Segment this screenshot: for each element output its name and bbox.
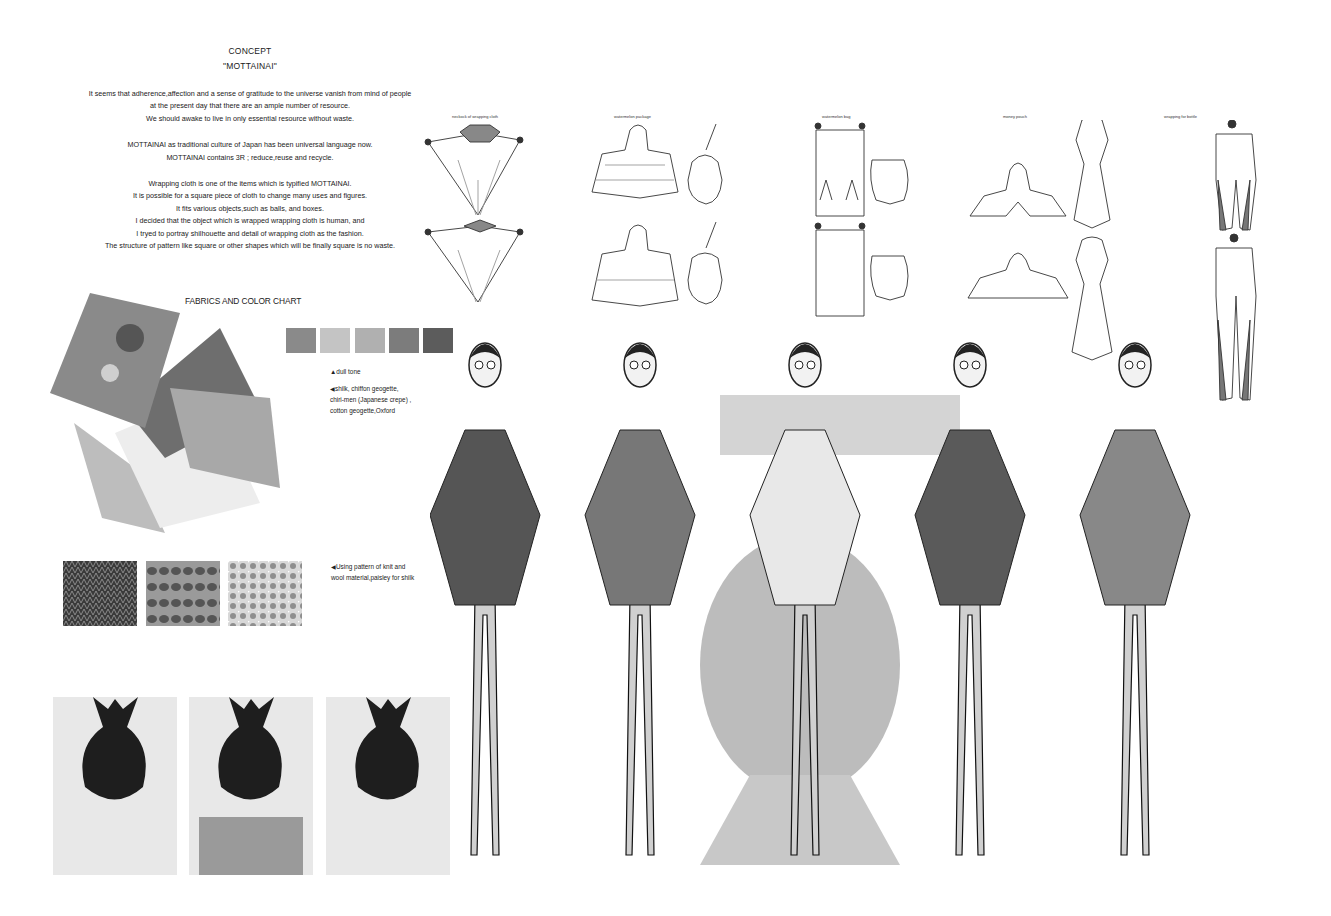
concept-paragraph-1: It seems that adherence,affection and a … [40, 88, 460, 125]
figure-garment [915, 430, 1025, 605]
figure-garment [1080, 430, 1190, 605]
concept-line: Wrapping cloth is one of the items which… [148, 179, 351, 188]
pattern-note: ◀Using pattern of knit and wool material… [331, 561, 414, 583]
figure-legs [791, 595, 819, 855]
concept-subheading: "MOTTAINAI" [40, 59, 460, 74]
figure-eye-left [630, 361, 638, 369]
concept-text-block: CONCEPT "MOTTAINAI" It seems that adhere… [40, 44, 460, 262]
concept-line: It is possible for a square piece of clo… [133, 191, 367, 200]
figure-eye-right [642, 361, 650, 369]
color-swatch-2 [320, 328, 350, 353]
concept-paragraph-2: MOTTAINAI as traditional culture of Japa… [40, 139, 460, 164]
concept-line: We should awake to live in only essentia… [146, 114, 354, 123]
concept-line: I decided that the object which is wrapp… [136, 216, 365, 225]
flat-label-money-pouch: money pouch [1003, 114, 1027, 119]
figure-eye-right [972, 361, 980, 369]
figure-eye-left [795, 361, 803, 369]
material-note: ◀shilk, chiffon geogette, chiri-men (Jap… [330, 383, 411, 416]
material-note-line: chiri-men (Japanese crepe) , [330, 396, 411, 403]
fashion-figure-4 [915, 343, 1025, 855]
figure-eye-left [1125, 361, 1133, 369]
concept-line: It seems that adherence,affection and a … [89, 89, 412, 98]
fabric-swatch-motif [116, 324, 144, 352]
concept-line: It fits various objects,such as balls, a… [176, 204, 324, 213]
figure-garment [430, 430, 540, 605]
fashion-figure-5 [1080, 343, 1190, 855]
flat-long-dress [1072, 120, 1112, 360]
concept-line: at the present day that there are an amp… [150, 101, 350, 110]
photo-wrapped-cloth-2 [189, 697, 313, 875]
figure-garment [750, 430, 860, 605]
flat-label-neckock: neckock of wrapping cloth [452, 114, 498, 119]
fabric-swatches-collage [40, 278, 310, 548]
wrapped-cloth-shape [355, 697, 418, 800]
flat-money-pouch [968, 163, 1068, 298]
concept-paragraph-3: Wrapping cloth is one of the items which… [40, 178, 460, 252]
color-swatch-1 [286, 328, 316, 353]
flat-neckock-back [425, 220, 523, 302]
pattern-note-line: ◀Using pattern of knit and [331, 563, 405, 570]
figure-legs [1121, 595, 1149, 855]
figure-legs [471, 595, 499, 855]
fashion-figures [430, 335, 1310, 875]
concept-heading: CONCEPT [40, 44, 460, 59]
color-swatch-3 [355, 328, 385, 353]
figure-eye-left [475, 361, 483, 369]
fashion-figure-1 [430, 343, 540, 855]
wrapped-cloth-shape [82, 697, 145, 800]
photo-wrapped-cloth-1 [53, 697, 177, 875]
figure-eye-right [807, 361, 815, 369]
material-note-line: cotton geogette,Oxford [330, 407, 395, 414]
tone-note: ▲dull tone [330, 366, 361, 377]
material-note-line: ◀shilk, chiffon geogette, [330, 385, 398, 392]
pattern-tile-paisley [228, 561, 302, 626]
figure-garment [585, 430, 695, 605]
flat-watermelon-package [592, 124, 722, 306]
figure-legs [626, 595, 654, 855]
fabric-swatch-motif [101, 364, 119, 382]
concept-line: The structure of pattern like square or … [105, 241, 395, 250]
flat-label-wrapping-for-bottle: wrapping for bottle [1164, 114, 1197, 119]
flat-watermelon-bag [815, 123, 908, 316]
figure-eye-right [487, 361, 495, 369]
concept-line: I tryed to portray shilhouette and detai… [136, 229, 363, 238]
concept-line: MOTTAINAI as traditional culture of Japa… [127, 140, 372, 149]
figure-eye-left [960, 361, 968, 369]
color-swatch-4 [389, 328, 419, 353]
flat-label-watermelon-package: watermelon package [614, 114, 651, 119]
pattern-tile-knit [63, 561, 137, 626]
fashion-figure-2 [585, 343, 695, 855]
figure-legs [956, 595, 984, 855]
fashion-figure-3 [750, 343, 860, 855]
pattern-note-line: wool material,paisley for shilk [331, 574, 414, 581]
concept-line: MOTTAINAI contains 3R ; reduce,reuse and… [166, 153, 333, 162]
figure-eye-right [1137, 361, 1145, 369]
wrapped-cloth-shape [218, 697, 281, 800]
pattern-tile-wool [146, 561, 220, 626]
figure-shoulders-silhouette [199, 817, 303, 875]
flat-neckock-front [425, 125, 523, 215]
flat-label-watermelon-bag: watermelon bag [822, 114, 850, 119]
